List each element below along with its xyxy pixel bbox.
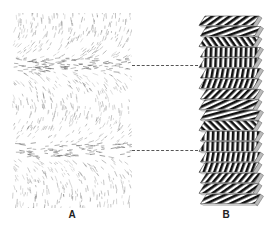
texture-graphic bbox=[12, 13, 132, 208]
panel-b-label: B bbox=[216, 209, 236, 220]
connector-line-top bbox=[132, 65, 198, 66]
plate-stack-graphic bbox=[196, 14, 266, 208]
connector-line-bottom bbox=[132, 150, 198, 151]
panel-a-texture bbox=[12, 13, 132, 208]
panel-b-plate-stack bbox=[196, 14, 266, 208]
panel-a-label: A bbox=[62, 209, 82, 220]
